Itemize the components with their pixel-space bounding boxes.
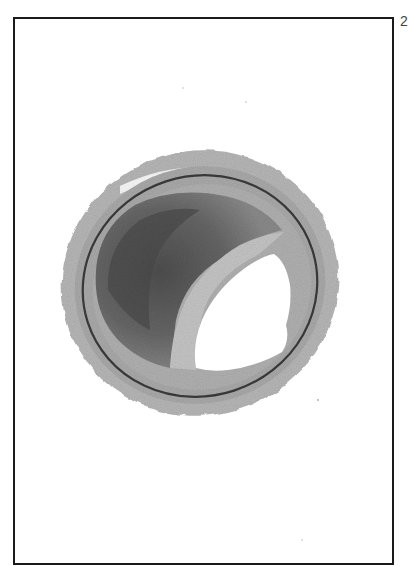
artery-cross-section-image [0,0,408,566]
speck [301,539,303,541]
speck [182,87,184,89]
speck [245,101,247,103]
speck [317,399,319,401]
figure-page: 2 [0,0,408,566]
vessel-wall-group [27,115,373,452]
